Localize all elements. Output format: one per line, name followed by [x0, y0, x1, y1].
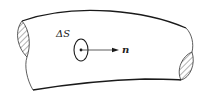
left-cross-section — [18, 21, 30, 57]
surface-element-label: ΔS — [55, 28, 70, 39]
tube-bottom-edge — [33, 79, 181, 90]
normal-vector-label: n — [122, 44, 129, 55]
tube-right-edge — [186, 28, 193, 52]
normal-vector-arrowhead — [112, 48, 119, 52]
right-cross-section — [179, 52, 193, 80]
tube-top-edge — [22, 10, 186, 28]
tube-left-edge — [26, 57, 33, 90]
tube-diagram: ΔS n — [0, 0, 204, 100]
